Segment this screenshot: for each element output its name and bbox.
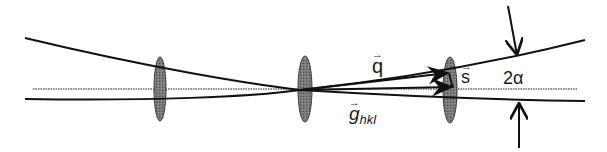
q-vector-label: →q — [372, 56, 383, 76]
top-angle-arrow — [508, 6, 517, 55]
vector-arrow-icon: → — [349, 97, 360, 108]
two-alpha-label: 2α — [503, 69, 523, 87]
s-vector-label: →s — [461, 68, 470, 86]
vector-arrow-icon: → — [372, 49, 383, 60]
vector-arrow-icon: → — [461, 61, 470, 72]
g-hkl-vector-label: →ghkl — [349, 104, 376, 126]
s-vector-tip-icon — [450, 84, 454, 88]
lens-3 — [443, 57, 457, 123]
